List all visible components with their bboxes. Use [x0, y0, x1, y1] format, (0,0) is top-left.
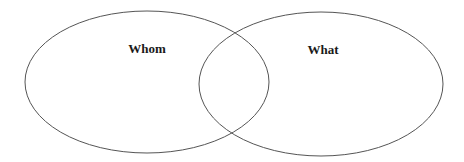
venn-diagram: Whom What	[0, 0, 464, 162]
whom-set-ellipse	[25, 11, 269, 153]
whom-set-label: Whom	[128, 41, 166, 56]
venn-canvas: Whom What	[0, 0, 464, 162]
what-set-label: What	[307, 42, 339, 57]
